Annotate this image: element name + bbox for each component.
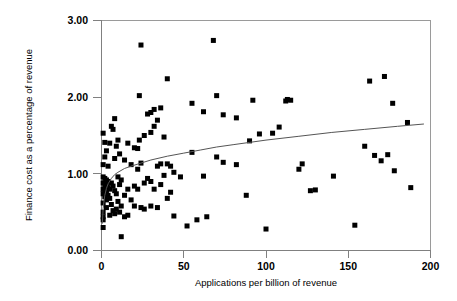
x-axis-title: Applications per billion of revenue bbox=[195, 277, 337, 288]
data-point bbox=[142, 133, 147, 138]
data-point bbox=[300, 161, 305, 166]
data-point bbox=[158, 105, 163, 110]
data-point bbox=[382, 74, 387, 79]
data-point bbox=[171, 170, 176, 175]
data-point bbox=[185, 223, 190, 228]
data-point bbox=[101, 225, 106, 230]
data-point bbox=[117, 210, 122, 215]
data-point bbox=[408, 185, 413, 190]
y-tick-label-3: 3.00 bbox=[68, 14, 89, 26]
data-point bbox=[244, 193, 249, 198]
data-point bbox=[112, 211, 117, 216]
data-point bbox=[137, 138, 142, 143]
data-point bbox=[112, 116, 117, 121]
data-point bbox=[288, 98, 293, 103]
data-point bbox=[135, 146, 140, 151]
data-point bbox=[129, 197, 134, 202]
data-point bbox=[111, 184, 116, 189]
data-point bbox=[270, 131, 275, 136]
data-point bbox=[201, 174, 206, 179]
data-point bbox=[138, 43, 143, 48]
y-tick-labels: 3.00 2.00 1.00 0.00 bbox=[68, 14, 89, 256]
data-point bbox=[122, 158, 127, 163]
data-point bbox=[204, 214, 209, 219]
data-point bbox=[165, 76, 170, 81]
data-point bbox=[214, 93, 219, 98]
data-point bbox=[171, 214, 176, 219]
data-point bbox=[137, 93, 142, 98]
data-point bbox=[158, 161, 163, 166]
data-point bbox=[221, 160, 226, 165]
data-point bbox=[313, 187, 318, 192]
data-point bbox=[122, 193, 127, 198]
data-point bbox=[101, 131, 106, 136]
data-point bbox=[257, 131, 262, 136]
data-point bbox=[132, 204, 137, 209]
data-point bbox=[119, 204, 124, 209]
data-point bbox=[234, 115, 239, 120]
data-point-markers bbox=[101, 38, 414, 239]
data-point bbox=[152, 107, 157, 112]
data-point bbox=[352, 223, 357, 228]
data-point bbox=[142, 181, 147, 186]
y-tick-label-0: 0.00 bbox=[68, 244, 89, 256]
data-point bbox=[135, 187, 140, 192]
scatter-plot: 3.00 2.00 1.00 0.00 0 50 100 150 200 App… bbox=[0, 0, 457, 301]
data-point bbox=[385, 152, 390, 157]
data-point bbox=[114, 144, 119, 149]
x-tick-labels: 0 50 100 150 200 bbox=[99, 260, 440, 272]
data-point bbox=[114, 191, 119, 196]
data-point bbox=[115, 138, 120, 143]
x-tick-label-4: 200 bbox=[422, 260, 440, 272]
data-point bbox=[221, 112, 226, 117]
data-point bbox=[165, 196, 170, 201]
data-point bbox=[162, 173, 167, 178]
data-point bbox=[101, 162, 106, 167]
data-point bbox=[148, 130, 153, 135]
data-point bbox=[234, 162, 239, 167]
data-point bbox=[111, 127, 116, 132]
y-axis-title: Finance cost as a percentage of revenue bbox=[23, 49, 34, 221]
data-point bbox=[158, 182, 163, 187]
data-point bbox=[264, 227, 269, 232]
data-point bbox=[135, 167, 140, 172]
y-tick-label-2: 2.00 bbox=[68, 91, 89, 103]
data-point bbox=[152, 187, 157, 192]
data-point bbox=[155, 205, 160, 210]
data-point bbox=[379, 158, 384, 163]
data-point bbox=[405, 120, 410, 125]
data-point bbox=[148, 204, 153, 209]
data-point bbox=[155, 118, 160, 123]
data-point bbox=[250, 98, 255, 103]
data-point bbox=[117, 151, 122, 156]
data-point bbox=[372, 153, 377, 158]
x-tick-label-2: 100 bbox=[257, 260, 275, 272]
data-point bbox=[152, 124, 157, 129]
x-tick-label-0: 0 bbox=[99, 260, 105, 272]
data-point bbox=[214, 154, 219, 159]
data-point bbox=[107, 141, 112, 146]
data-point bbox=[119, 234, 124, 239]
data-point bbox=[104, 205, 109, 210]
data-point bbox=[106, 164, 111, 169]
data-point bbox=[148, 179, 153, 184]
x-tick-label-1: 50 bbox=[178, 260, 190, 272]
data-point bbox=[125, 141, 130, 146]
data-point bbox=[119, 177, 124, 182]
data-point bbox=[308, 188, 313, 193]
x-tick-marks bbox=[102, 250, 431, 258]
data-point bbox=[194, 217, 199, 222]
data-point bbox=[115, 199, 120, 204]
data-point bbox=[102, 154, 107, 159]
data-point bbox=[390, 101, 395, 106]
data-point bbox=[178, 174, 183, 179]
data-point bbox=[168, 164, 173, 169]
data-point bbox=[201, 109, 206, 114]
data-point bbox=[102, 140, 107, 145]
data-point bbox=[277, 125, 282, 130]
data-point bbox=[362, 144, 367, 149]
data-point bbox=[392, 168, 397, 173]
y-tick-label-1: 1.00 bbox=[68, 168, 89, 180]
data-point bbox=[101, 217, 106, 222]
data-point bbox=[168, 190, 173, 195]
